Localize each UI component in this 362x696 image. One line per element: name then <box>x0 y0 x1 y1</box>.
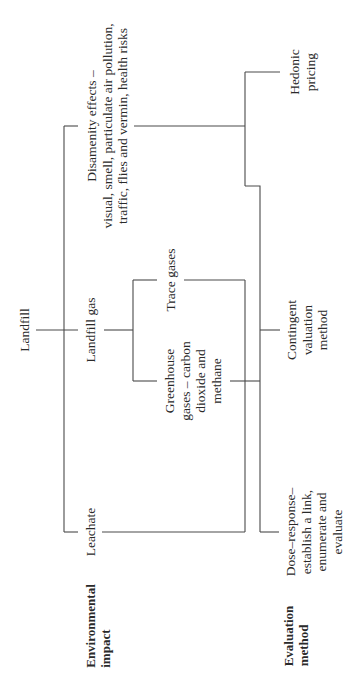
leachate-label: Leachate <box>83 508 99 557</box>
greenhouse-gases-label: Greenhouse gases – carbon dioxide and me… <box>162 341 224 420</box>
environmental-impact-header: Environmental impact <box>83 584 113 668</box>
landfill-root-label: Landfill <box>17 308 33 352</box>
contingent-valuation-label: Contingent valuation method <box>284 300 331 360</box>
landfill-gas-label: Landfill gas <box>83 298 99 363</box>
trace-gases-label: Trace gases <box>163 249 179 312</box>
dose-response-label: Dose–response– establish a link, enumera… <box>283 488 345 576</box>
hedonic-pricing-label: Hedonic pricing <box>287 49 318 95</box>
disamenity-effects-label: Disamenity effects – visual, smell, part… <box>84 23 131 228</box>
evaluation-method-header: Evaluation method <box>281 606 311 667</box>
